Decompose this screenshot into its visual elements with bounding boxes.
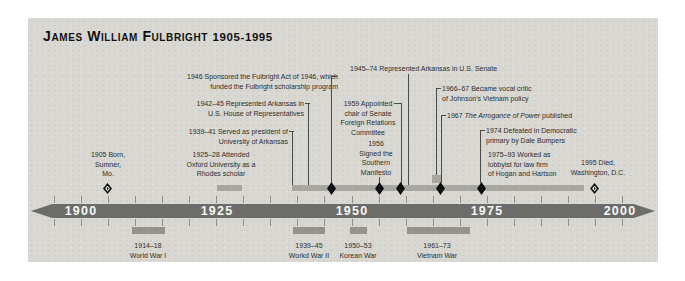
axis-tick: [595, 196, 596, 203]
axis-tick: [622, 196, 623, 203]
axis-tick: [243, 219, 244, 226]
axis-tick: [189, 219, 190, 226]
war-bar-korean: [350, 227, 367, 234]
axis-tick: [270, 196, 271, 203]
axis-tick: [135, 196, 136, 203]
axis-tick: [135, 219, 136, 226]
war-bar-wwi: [132, 227, 165, 234]
axis-tick: [406, 196, 407, 203]
axis-tick: [352, 219, 353, 226]
war-label-korean: 1950–53 Korean War: [318, 241, 398, 260]
axis-ticks: [0, 0, 685, 281]
axis-tick: [568, 196, 569, 203]
axis-tick: [270, 219, 271, 226]
axis-tick: [379, 219, 380, 226]
axis-tick: [514, 219, 515, 226]
war-label-vietnam: 1961–73 Vietnam War: [397, 241, 477, 260]
axis-tick: [487, 219, 488, 226]
axis-tick: [487, 196, 488, 203]
axis-year-2000: 2000: [585, 204, 655, 218]
axis-tick: [352, 196, 353, 203]
axis-year-1975: 1975: [452, 204, 522, 218]
axis-tick: [162, 196, 163, 203]
axis-tick: [162, 219, 163, 226]
axis-tick: [81, 196, 82, 203]
axis-tick: [460, 219, 461, 226]
axis-tick: [433, 196, 434, 203]
axis-tick: [568, 219, 569, 226]
axis-tick: [406, 219, 407, 226]
axis-tick: [622, 219, 623, 226]
axis-tick: [541, 196, 542, 203]
axis-tick: [54, 196, 55, 203]
axis-tick: [108, 219, 109, 226]
axis-year-1950: 1950: [317, 204, 387, 218]
axis-tick: [81, 219, 82, 226]
axis-tick: [297, 219, 298, 226]
axis-tick: [433, 219, 434, 226]
axis-tick: [379, 196, 380, 203]
axis-tick: [595, 219, 596, 226]
war-bar-vietnam: [407, 227, 470, 234]
axis-tick: [297, 196, 298, 203]
axis-year-1900: 1900: [46, 204, 116, 218]
axis-tick: [514, 196, 515, 203]
axis-tick: [324, 196, 325, 203]
figure: James William Fulbright 1905-1995 1946 S…: [0, 0, 685, 281]
axis-tick: [324, 219, 325, 226]
axis-tick: [541, 219, 542, 226]
war-bar-wwii: [293, 227, 325, 234]
axis-tick: [54, 219, 55, 226]
axis-tick: [216, 219, 217, 226]
axis-tick: [460, 196, 461, 203]
axis-tick: [189, 196, 190, 203]
axis-tick: [243, 196, 244, 203]
axis-tick: [216, 196, 217, 203]
war-label-wwi: 1914–18 World War I: [108, 241, 188, 260]
axis-tick: [108, 196, 109, 203]
axis-year-1925: 1925: [182, 204, 252, 218]
